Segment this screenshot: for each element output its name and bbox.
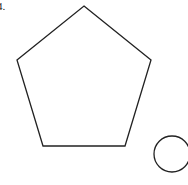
pentagon-shape	[17, 6, 151, 146]
figure	[0, 0, 188, 185]
circle-shape	[154, 136, 188, 172]
